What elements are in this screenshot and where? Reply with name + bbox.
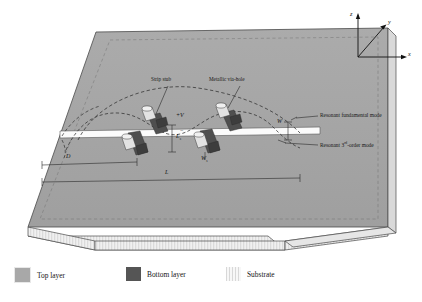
substrate-swatch bbox=[226, 267, 241, 281]
dimension-label-ws-sub: s bbox=[206, 158, 208, 163]
legend-item-bottom-layer: Bottom layer bbox=[126, 267, 186, 281]
legend-item-top-layer: Top layer bbox=[14, 267, 65, 283]
strip-stub-label: Strip stub bbox=[151, 76, 171, 82]
dimension-label-l: L bbox=[165, 169, 168, 175]
dimension-label-d: D bbox=[66, 153, 70, 159]
legend: Top layer Bottom layer Substrate bbox=[0, 262, 422, 288]
top-layer-face bbox=[28, 28, 388, 227]
polarity-negative-label: − bbox=[180, 127, 183, 133]
axis-label-x: x bbox=[408, 50, 411, 57]
polarity-positive-label: +V bbox=[176, 112, 184, 118]
legend-item-substrate: Substrate bbox=[226, 267, 275, 281]
third-order-mode-suffix: -order mode bbox=[347, 142, 374, 148]
dimension-label-ws: Ws bbox=[201, 155, 208, 163]
axis-label-z: z bbox=[350, 10, 352, 17]
bottom-layer-swatch bbox=[126, 267, 141, 281]
third-order-mode-label: Resonant 3rd-order mode bbox=[320, 141, 374, 148]
top-layer-swatch bbox=[14, 267, 31, 283]
dimension-label-ls: Ls bbox=[176, 133, 181, 141]
fundamental-mode-label: Resonant fundamental mode bbox=[320, 112, 382, 118]
dimension-label-ls-sub: s bbox=[179, 136, 181, 141]
slab-right-bevel bbox=[388, 28, 396, 233]
axis-label-y: y bbox=[388, 18, 391, 25]
third-order-mode-prefix: Resonant bbox=[320, 142, 341, 148]
legend-label-substrate: Substrate bbox=[247, 270, 275, 279]
structure-drawing bbox=[0, 0, 422, 302]
legend-label-bottom-layer: Bottom layer bbox=[147, 270, 186, 279]
legend-label-top-layer: Top layer bbox=[37, 271, 65, 280]
dimension-label-w: W bbox=[277, 118, 282, 124]
antenna-structure-figure: z y x Strip stub Metallic via-hole Reson… bbox=[0, 0, 422, 302]
via-hole-label: Metallic via-hole bbox=[209, 76, 245, 82]
